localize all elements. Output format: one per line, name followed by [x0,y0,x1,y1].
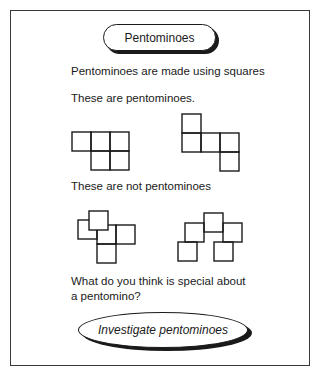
title-banner: Pentominoes [103,24,216,51]
question-line-1: What do you think is special about [71,274,246,289]
examples-label: These are pentominoes. [71,91,195,106]
page-title: Pentominoes [124,31,194,45]
investigate-pentominoes-button[interactable]: Investigate pentominoes [78,312,248,348]
question-line-2: a pentomino? [71,289,141,304]
intro-text: Pentominoes are made using squares [71,64,265,79]
non-examples-label: These are not pentominoes [71,179,211,194]
investigate-pentominoes-label: Investigate pentominoes [98,323,228,337]
